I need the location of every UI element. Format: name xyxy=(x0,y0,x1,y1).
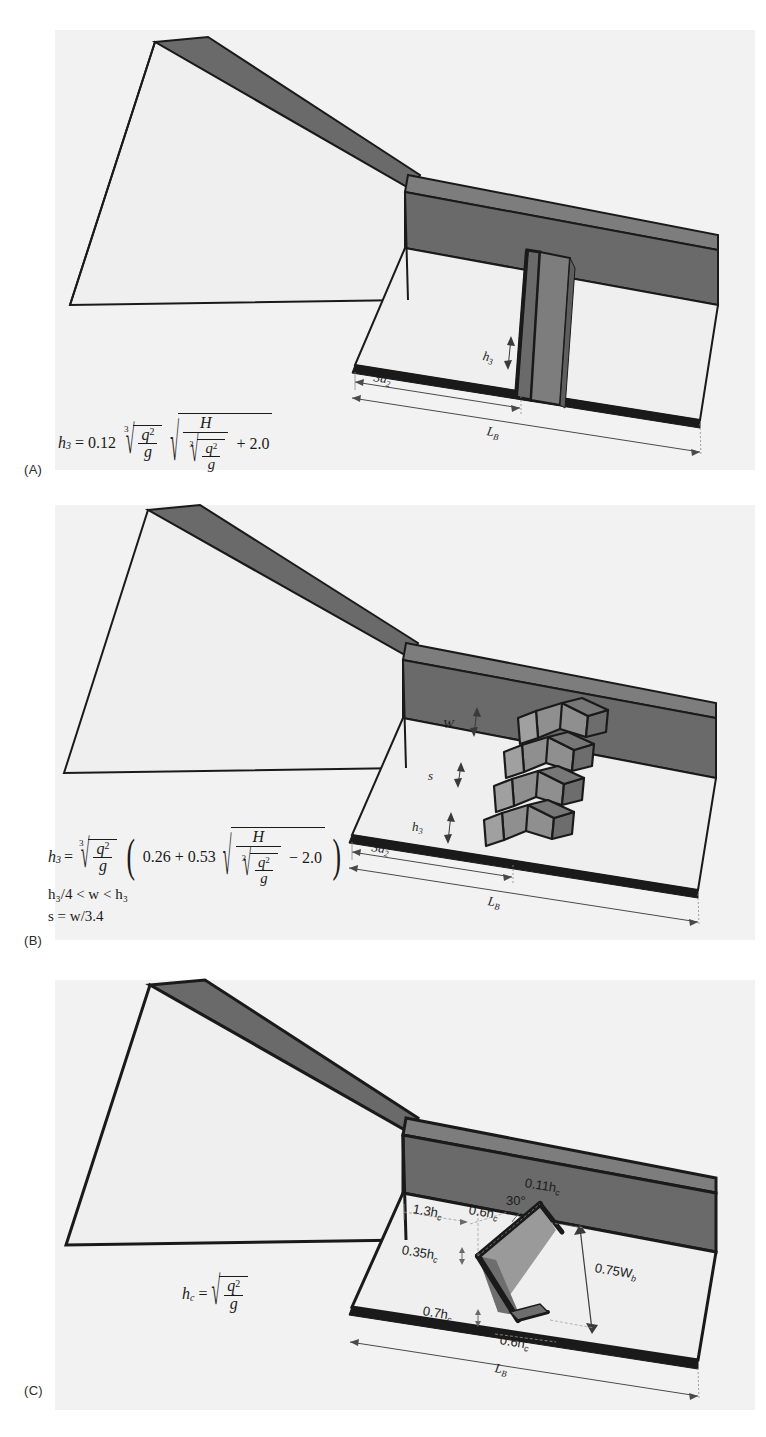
formula-b-paren-open: ( xyxy=(127,839,135,874)
formula-a-q-exp: 2 xyxy=(149,426,154,437)
annotation-3d2-b: 3d2 xyxy=(371,839,391,858)
formula-panel-c: hc = √ q2 g xyxy=(182,1276,248,1313)
formula-b-q-exp: 2 xyxy=(104,840,109,851)
formula-a-q2-exp: 2 xyxy=(213,441,218,451)
condition-width-b: h₃/4 < w < h₃ xyxy=(48,886,128,903)
formula-a-g2: g xyxy=(202,456,220,472)
formula-b-term1: 0.26 + 0.53 xyxy=(143,849,216,865)
formula-a-radical-1: 3 √ q2 g xyxy=(121,425,162,462)
formula-a-constant: + 2.0 xyxy=(230,436,269,452)
panel-label-a: (A) xyxy=(24,462,42,477)
formula-b-q2-exp: 2 xyxy=(265,855,270,865)
formula-b-radical-2: √ H 3 √ q2 xyxy=(223,827,325,887)
formula-b-equals: = xyxy=(61,849,76,865)
formula-c-equals: = xyxy=(194,1286,211,1302)
formula-b-radical-1: 3 √ q2 g xyxy=(76,839,117,876)
formula-a-lhs-sub: 3 xyxy=(66,441,71,451)
formula-a-g: g xyxy=(138,443,157,461)
annotation-3d2-a: 3d2 xyxy=(373,369,393,388)
annotation-lb-c: LB xyxy=(494,1360,509,1378)
panel-c: hc = √ q2 g 0.11hc 1.3hc 0.6hc 30° 0.35h… xyxy=(0,960,766,1437)
panel-a: h3 = 0.12 3 √ q2 g √ xyxy=(0,0,766,500)
formula-b-paren-close: ) xyxy=(332,839,340,874)
formula-c-lhs-sub: c xyxy=(190,1293,194,1303)
formula-panel-b: h3 = 3 √ q2 g ( 0.26 + 0.53 √ xyxy=(48,827,344,887)
panel-label-c: (C) xyxy=(24,1383,43,1398)
formula-a-coefficient: 0.12 xyxy=(88,435,116,451)
annotation-lb-b: LB xyxy=(487,893,502,911)
panel-c-drawing xyxy=(0,960,766,1437)
panel-label-b: (B) xyxy=(24,933,42,948)
panel-b: h3 = 3 √ q2 g ( 0.26 + 0.53 √ xyxy=(0,490,766,968)
formula-c-g: g xyxy=(224,1295,243,1313)
formula-c-radical: √ q2 g xyxy=(211,1276,248,1313)
formula-a-q2: q xyxy=(205,440,212,456)
formula-a-H: H xyxy=(197,415,215,432)
formula-b-lhs: h xyxy=(48,849,56,865)
annotation-angle-c: 30° xyxy=(506,1193,526,1208)
annotation-s-b: s xyxy=(428,768,433,784)
formula-b-constant: − 2.0 xyxy=(283,850,322,866)
formula-b-H: H xyxy=(249,829,267,846)
formula-a-equals: = xyxy=(71,435,88,451)
annotation-h3-b: h3 xyxy=(412,819,423,835)
figure-root: h3 = 0.12 3 √ q2 g √ xyxy=(0,0,766,1437)
condition-spacing-b: s = w/3.4 xyxy=(48,908,104,925)
formula-c-lhs: h xyxy=(182,1286,190,1302)
formula-c-q-exp: 2 xyxy=(235,1278,240,1289)
annotation-W-b: W xyxy=(443,716,454,732)
formula-a-radical-2: √ H 3 √ q2 xyxy=(170,413,272,473)
formula-b-lhs-sub: 3 xyxy=(56,855,61,865)
formula-panel-a: h3 = 0.12 3 √ q2 g √ xyxy=(58,413,272,473)
formula-a-lhs: h xyxy=(58,435,66,451)
formula-b-g2: g xyxy=(255,870,273,886)
formula-b-g: g xyxy=(93,857,112,875)
